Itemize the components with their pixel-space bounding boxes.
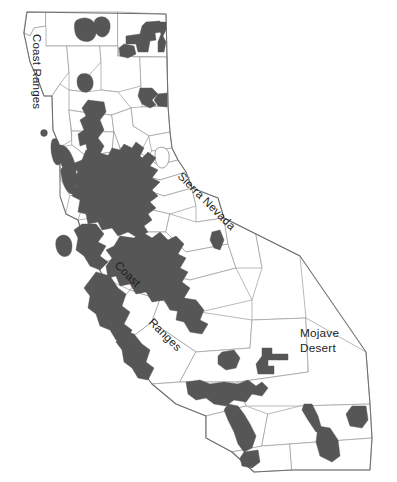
county-outline: [52, 84, 72, 147]
county-boundaries-layer: [24, 12, 372, 472]
lake-tahoe-shape: [155, 147, 169, 168]
label-mojave-desert-line1: Mojave: [300, 326, 339, 340]
label-mojave-desert-line2: Desert: [300, 341, 336, 355]
county-outline: [252, 234, 306, 320]
label-coast-ranges-north: Coast Ranges: [31, 34, 43, 109]
highlight-region: [77, 73, 93, 92]
highlight-region: [74, 18, 96, 42]
highlight-region: [41, 130, 48, 137]
california-map-figure: Coast Ranges Sierra Nevada Coast Ranges …: [0, 0, 397, 482]
map-canvas: Coast Ranges Sierra Nevada Coast Ranges …: [0, 0, 397, 482]
highlight-region: [56, 235, 72, 256]
